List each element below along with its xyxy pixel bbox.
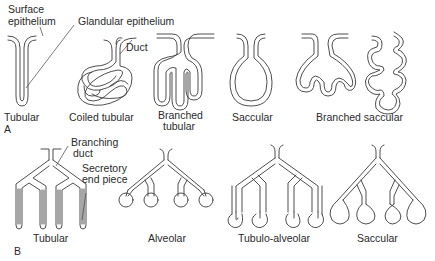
gland-types-diagram: Surface epithelium Glandular epithelium … xyxy=(0,0,435,261)
gland-simple-tubular xyxy=(8,36,36,106)
label-tubulo-alveolar: Tubulo-alveolar xyxy=(238,232,310,244)
gland-branched-tubular xyxy=(154,34,214,110)
label-branching-duct-2: duct xyxy=(73,147,93,159)
gland-branched-saccular-1 xyxy=(296,34,356,96)
label-branched-saccular: Branched saccular xyxy=(316,111,403,123)
panel-b: Branching duct Secretory end piece Tubul… xyxy=(14,136,426,257)
label-surface-epithelium-1: Surface xyxy=(8,3,44,15)
compound-alveolar xyxy=(119,149,213,207)
label-saccular-a: Saccular xyxy=(232,111,273,123)
label-secretory-2: end piece xyxy=(82,173,128,185)
glandular-epithelium-pointer xyxy=(26,25,74,88)
panel-a-letter: A xyxy=(4,123,11,135)
gland-branched-saccular-2 xyxy=(365,32,406,114)
label-branched-tubular-2: tubular xyxy=(163,120,196,132)
compound-tubulo-alveolar xyxy=(228,145,324,228)
label-surface-epithelium-2: epithelium xyxy=(8,15,56,27)
compound-saccular xyxy=(330,145,426,224)
panel-b-letter: B xyxy=(14,245,21,257)
gland-saccular xyxy=(230,34,272,106)
label-tubular-b: Tubular xyxy=(33,232,69,244)
label-coiled-tubular: Coiled tubular xyxy=(69,111,134,123)
label-saccular-b: Saccular xyxy=(357,232,398,244)
panel-a: Surface epithelium Glandular epithelium … xyxy=(4,3,406,135)
label-alveolar: Alveolar xyxy=(148,232,186,244)
compound-tubular xyxy=(16,149,86,229)
surface-epithelium-pointer xyxy=(40,27,43,36)
label-duct: Duct xyxy=(126,41,148,53)
label-tubular-a: Tubular xyxy=(4,111,40,123)
label-glandular-epithelium: Glandular epithelium xyxy=(78,15,175,27)
